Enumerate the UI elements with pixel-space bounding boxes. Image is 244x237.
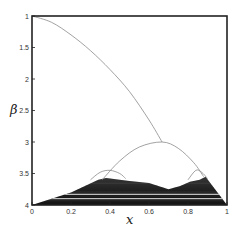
x-tick-label: 1 [225, 208, 229, 215]
x-tick-label: 0.4 [105, 208, 115, 215]
y-tick-label: 1.5 [19, 44, 29, 51]
y-tick-label: 2 [25, 76, 29, 83]
plot-area [32, 16, 227, 205]
x-tick-label: 0 [30, 208, 34, 215]
x-tick-label: 0.6 [144, 208, 154, 215]
y-tick-label: 3.5 [19, 170, 29, 177]
x-tick-label: 0.8 [183, 208, 193, 215]
curve-central-arc [102, 142, 203, 180]
y-tick-label: 1 [25, 13, 29, 20]
x-axis-label: x [126, 212, 134, 227]
x-tick-label: 0.2 [66, 208, 76, 215]
y-tick-label: 3 [25, 139, 29, 146]
bifurcation-curves [32, 16, 208, 180]
y-axis-label: β [9, 102, 18, 117]
y-tick-label: 2.5 [19, 107, 29, 114]
bifurcation-chart: 11.522.533.54 00.20.40.60.81 β x [0, 0, 244, 237]
chaotic-region [32, 177, 227, 205]
curve-main-branch [32, 16, 162, 142]
y-tick-label: 4 [25, 202, 29, 209]
plot-frame [32, 16, 227, 205]
